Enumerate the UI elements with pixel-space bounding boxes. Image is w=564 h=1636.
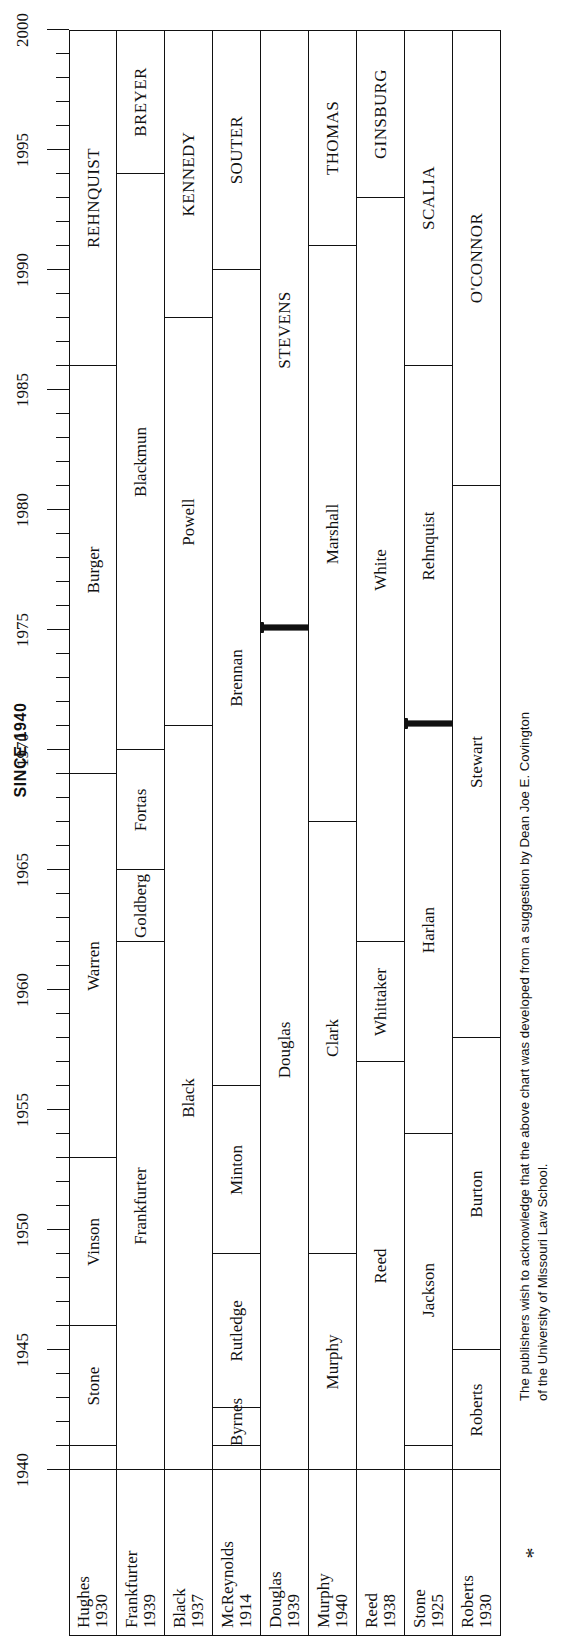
term-label: Stone: [70, 1326, 118, 1446]
term-label: REHNQUIST: [70, 30, 118, 366]
term-label: Byrnes: [213, 1408, 261, 1446]
axis-tick-major: [47, 1229, 69, 1230]
axis-tick-minor: [56, 1061, 69, 1062]
term-label: Burton: [453, 1038, 501, 1350]
axis-tick-minor: [56, 1445, 69, 1446]
term-label: Frankfurter: [117, 942, 165, 1470]
seat-appointed-year: 1914: [237, 1470, 255, 1628]
seat-lane: McReynoldsByrnesRutledgeMintonBrennanSOU…: [213, 30, 261, 1470]
axis-tick-minor: [56, 1205, 69, 1206]
axis-tick-minor: [56, 1253, 69, 1254]
term-label: Blackmun: [117, 174, 165, 750]
axis-tick-minor: [56, 1301, 69, 1302]
axis-tick-label: 1970: [13, 733, 33, 767]
axis-tick-minor: [56, 1037, 69, 1038]
axis-tick-minor: [56, 173, 69, 174]
axis-tick-minor: [56, 1325, 69, 1326]
rotated-chart-canvas: SINCE 1940 19401945195019551960196519701…: [0, 0, 564, 1636]
seat-label: Black1937: [165, 1470, 213, 1636]
axis-tick-label: 1965: [13, 853, 33, 887]
seat-label: Reed1938: [357, 1470, 405, 1636]
axis-tick-label: 2000: [13, 13, 33, 47]
axis-tick-minor: [56, 965, 69, 966]
term-label: White: [357, 198, 405, 942]
term-label: Brennan: [213, 270, 261, 1086]
term-label: Powell: [165, 318, 213, 726]
asterisk-marker: *: [520, 1470, 546, 1636]
axis-tick-major: [47, 29, 69, 30]
axis-tick-minor: [56, 413, 69, 414]
seat-appointed-year: 1939: [285, 1470, 303, 1628]
term-label: Murphy: [309, 1254, 357, 1470]
footnote-acknowledgement: The publishers wish to acknowledge that …: [516, 701, 552, 1401]
axis-tick-minor: [56, 197, 69, 198]
axis-tick-minor: [56, 821, 69, 822]
seat-lane: ReedWhittakerWhiteGINSBURG: [357, 30, 405, 1470]
axis-tick-label: 1940: [13, 1453, 33, 1487]
term-label: SOUTER: [213, 30, 261, 270]
term-label: Harlan: [405, 726, 453, 1134]
term-label: SCALIA: [405, 30, 453, 366]
axis-tick-minor: [56, 1013, 69, 1014]
seat-justice-name: Black: [171, 1470, 189, 1628]
axis-tick-minor: [56, 557, 69, 558]
term-label: Rutledge: [213, 1254, 261, 1408]
axis-tick-minor: [56, 461, 69, 462]
axis-tick-major: [47, 869, 69, 870]
term-label: O'CONNOR: [453, 30, 501, 486]
term-label: Marshall: [309, 246, 357, 822]
axis-tick-minor: [56, 101, 69, 102]
axis-tick-minor: [56, 893, 69, 894]
axis-tick-minor: [56, 653, 69, 654]
axis-tick-label: 1985: [13, 373, 33, 407]
axis-tick-minor: [56, 341, 69, 342]
seat-appointed-year: 1938: [381, 1470, 399, 1628]
axis-tick-minor: [56, 725, 69, 726]
seat-justice-name: Hughes: [75, 1470, 93, 1628]
axis-tick-label: 1980: [13, 493, 33, 527]
term-label: BREYER: [117, 30, 165, 174]
axis-tick-minor: [56, 293, 69, 294]
seat-label-column: Hughes1930Frankfurter1939Black1937McReyn…: [69, 1470, 501, 1636]
seat-justice-name: Frankfurter: [123, 1470, 141, 1628]
axis-tick-minor: [56, 1157, 69, 1158]
seat-lane: MurphyClarkMarshallTHOMAS: [309, 30, 357, 1470]
axis-tick-minor: [56, 1421, 69, 1422]
seat-appointed-year: 1925: [429, 1470, 447, 1628]
term-label: STEVENS: [261, 30, 309, 630]
axis-tick-major: [47, 1469, 69, 1470]
axis-tick-label: 1995: [13, 133, 33, 167]
seat-appointed-year: 1937: [189, 1470, 207, 1628]
seat-justice-name: Reed: [363, 1470, 381, 1628]
seat-lane: RobertsBurtonStewartO'CONNOR: [453, 30, 501, 1470]
seat-justice-name: Murphy: [315, 1470, 333, 1628]
axis-tick-minor: [56, 245, 69, 246]
timeline-plot: HughesStoneVinsonWarrenBurgerREHNQUISTFr…: [69, 30, 501, 1470]
axis-tick-major: [47, 1109, 69, 1110]
axis-tick-major: [47, 509, 69, 510]
axis-tick-minor: [56, 485, 69, 486]
axis-tick-minor: [56, 797, 69, 798]
term-label: Warren: [70, 774, 118, 1158]
term-label: Minton: [213, 1086, 261, 1254]
axis-tick-minor: [56, 1085, 69, 1086]
axis-tick-major: [47, 989, 69, 990]
term-label: Reed: [357, 1062, 405, 1470]
seat-lane: HughesStoneVinsonWarrenBurgerREHNQUIST: [69, 30, 117, 1470]
seat-label: Stone1925: [405, 1470, 453, 1636]
seat-label: Hughes1930: [69, 1470, 117, 1636]
axis-tick-minor: [56, 941, 69, 942]
axis-tick-minor: [56, 317, 69, 318]
axis-tick-minor: [56, 1277, 69, 1278]
axis-tick-label: 1990: [13, 253, 33, 287]
seat-appointed-year: 1940: [333, 1470, 351, 1628]
seat-label: Roberts1930: [453, 1470, 501, 1636]
seat-appointed-year: 1930: [477, 1470, 495, 1628]
seat-appointed-year: 1939: [141, 1470, 159, 1628]
axis-tick-label: 1975: [13, 613, 33, 647]
seat-label: Douglas1939: [261, 1470, 309, 1636]
axis-tick-major: [47, 149, 69, 150]
seat-justice-name: McReynolds: [219, 1470, 237, 1628]
seat-lane: DouglasSTEVENS: [261, 30, 309, 1470]
axis-tick-major: [47, 389, 69, 390]
